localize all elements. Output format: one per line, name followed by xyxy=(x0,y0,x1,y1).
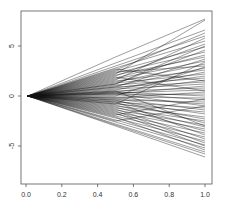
series-line xyxy=(28,96,205,141)
y-tick-label: -5 xyxy=(8,143,15,149)
x-tick-label: 0.6 xyxy=(129,191,139,198)
x-tick-label: 1.0 xyxy=(200,191,210,198)
x-tick-label: 0.2 xyxy=(57,191,67,198)
x-tick-label: 0.0 xyxy=(21,191,31,198)
x-axis: 0.00.20.40.60.81.0 xyxy=(21,184,210,198)
y-tick-label: 0 xyxy=(8,94,15,98)
chart-plot: 0.00.20.40.60.81.0 50-5 xyxy=(0,0,228,209)
y-axis: 50-5 xyxy=(8,44,21,149)
paths-group xyxy=(28,19,205,157)
x-tick-label: 0.8 xyxy=(164,191,174,198)
y-tick-label: 5 xyxy=(8,44,15,48)
x-tick-label: 0.4 xyxy=(93,191,103,198)
